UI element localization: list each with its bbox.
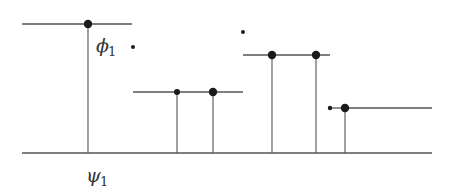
phi-subscript: 1: [108, 44, 116, 59]
filled-dot-4: [341, 104, 349, 112]
filled-dot-3a: [268, 51, 276, 59]
filled-dot-3b: [312, 51, 320, 59]
isolated-dot-3: [328, 106, 332, 110]
isolated-dot-2: [241, 30, 245, 34]
filled-dot-1: [84, 20, 92, 28]
isolated-dot-1: [131, 45, 135, 49]
psi-subscript: 1: [100, 174, 108, 189]
step-function-diagram: ϕ 1 ψ 1: [0, 0, 453, 194]
dot-2a: [174, 89, 180, 95]
filled-dot-2b: [209, 88, 217, 96]
